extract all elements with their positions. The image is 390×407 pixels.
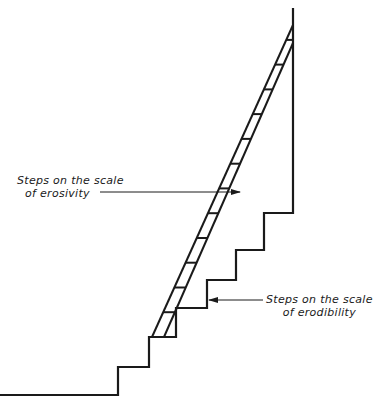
erodibility-label-line2: of erodibility [266, 306, 373, 319]
erosivity-label-line2: of erosivity [17, 187, 124, 200]
erodibility-label: Steps on the scale of erodibility [266, 293, 373, 319]
erodibility-staircase [0, 8, 293, 395]
erosivity-label: Steps on the scale of erosivity [17, 174, 124, 200]
erosivity-ladder [152, 25, 293, 337]
erosivity-label-line1: Steps on the scale [17, 174, 124, 187]
erodibility-label-line1: Steps on the scale [266, 293, 373, 306]
ladder-left-rail [152, 25, 293, 337]
diagram-canvas [0, 0, 390, 407]
